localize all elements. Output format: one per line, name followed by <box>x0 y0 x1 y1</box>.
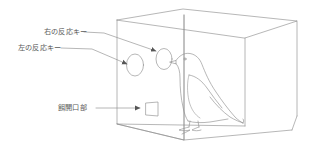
label-feeder-opening: 餌開口部 <box>58 103 87 112</box>
pigeon-foot-front <box>179 127 190 134</box>
pigeon-beak <box>170 61 176 64</box>
pigeon-wing-upper <box>189 75 222 108</box>
pigeon-wing-lower <box>188 75 201 118</box>
chamber-bottom-right-edge <box>292 116 297 130</box>
pigeon-breast-contour <box>176 64 188 122</box>
chamber-floor-front-edge <box>117 124 292 140</box>
left-response-key[interactable] <box>127 54 144 76</box>
pigeon-leg-back <box>198 121 199 127</box>
chamber-outline <box>117 9 297 140</box>
figure-canvas: 右の反応キー 左の反応キー 餌開口部 <box>0 0 316 162</box>
pigeon <box>170 53 244 134</box>
chamber-top-face <box>117 9 297 38</box>
pigeon-belly-contour <box>188 119 228 123</box>
skinner-box-diagram: 右の反応キー 左の反応キー 餌開口部 <box>0 0 316 162</box>
label-right-response-key: 右の反応キー <box>44 27 87 36</box>
chamber-floor-back-edge <box>117 124 245 126</box>
label-left-response-key: 左の反応キー <box>18 43 61 52</box>
feeder-opening[interactable] <box>146 102 158 116</box>
pigeon-leg-front <box>189 121 190 127</box>
right-key-leader-line <box>84 32 156 51</box>
pigeon-tail-tip <box>243 119 244 123</box>
pigeon-foot-back <box>192 127 201 131</box>
pigeon-back-contour <box>176 53 243 123</box>
chamber-left-panel <box>117 15 184 140</box>
right-response-key[interactable] <box>156 49 172 70</box>
